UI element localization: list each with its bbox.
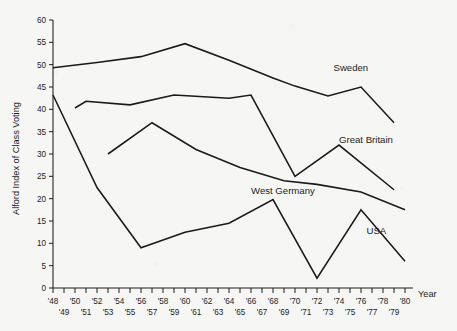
x-tick-label: '58 (158, 297, 169, 306)
y-tick-label: 25 (37, 172, 47, 181)
y-axis: 051015202530354045505560 (37, 16, 53, 293)
x-tick-label: '79 (389, 308, 400, 317)
series-label-sweden: Sweden (334, 62, 369, 73)
x-tick-label: '49 (59, 308, 70, 317)
y-tick-label: 10 (37, 239, 47, 248)
x-tick-label: '76 (356, 297, 367, 306)
x-tick-label: '59 (169, 308, 180, 317)
series-label-west-germany: West Germany (251, 185, 315, 196)
chart-figure: Alford Index of Class Voting Year 051015… (0, 0, 457, 331)
x-tick-label: '53 (103, 308, 114, 317)
x-tick-label: '55 (125, 308, 136, 317)
x-tick-label: '71 (301, 308, 312, 317)
x-tick-label: '66 (246, 297, 257, 306)
x-tick-label: '74 (334, 297, 345, 306)
x-tick-label: '69 (279, 308, 290, 317)
line-chart-plot: Alford Index of Class Voting Year 051015… (0, 0, 457, 331)
x-tick-label: '62 (202, 297, 213, 306)
y-tick-label: 15 (37, 217, 47, 226)
y-tick-label: 45 (37, 83, 47, 92)
y-tick-label: 0 (41, 284, 46, 293)
x-tick-label: '72 (312, 297, 323, 306)
x-tick-label: '67 (257, 308, 268, 317)
x-tick-label: '70 (290, 297, 301, 306)
y-tick-label: 60 (37, 16, 47, 25)
x-tick-label: '78 (378, 297, 389, 306)
x-tick-label: '48 (48, 297, 59, 306)
x-tick-label: '56 (136, 297, 147, 306)
x-tick-label: '61 (191, 308, 202, 317)
series-lines (53, 44, 405, 279)
series-label-usa: USA (367, 225, 387, 236)
x-tick-label: '68 (268, 297, 279, 306)
x-tick-label: '57 (147, 308, 158, 317)
y-tick-label: 35 (37, 128, 47, 137)
x-axis: '48'49'50'51'52'53'54'55'56'57'58'59'60'… (48, 288, 413, 317)
x-tick-label: '50 (70, 297, 81, 306)
series-line-sweden (53, 44, 394, 123)
y-tick-label: 5 (41, 262, 46, 271)
y-tick-label: 30 (37, 150, 47, 159)
x-tick-label: '80 (400, 297, 411, 306)
y-tick-label: 40 (37, 105, 47, 114)
x-tick-label: '51 (81, 308, 92, 317)
series-labels: SwedenGreat BritainWest GermanyUSA (251, 62, 393, 236)
x-tick-label: '52 (92, 297, 103, 306)
x-tick-label: '65 (235, 308, 246, 317)
series-line-usa (53, 95, 405, 278)
x-axis-title: Year (418, 289, 437, 299)
y-tick-label: 20 (37, 195, 47, 204)
x-tick-label: '60 (180, 297, 191, 306)
y-tick-label: 55 (37, 38, 47, 47)
x-tick-label: '54 (114, 297, 125, 306)
x-tick-label: '73 (323, 308, 334, 317)
series-label-great-britain: Great Britain (339, 134, 393, 145)
x-tick-label: '77 (367, 308, 378, 317)
y-axis-title: Alford Index of Class Voting (11, 102, 21, 215)
x-tick-label: '75 (345, 308, 356, 317)
x-tick-label: '64 (224, 297, 235, 306)
y-tick-label: 50 (37, 61, 47, 70)
x-tick-label: '63 (213, 308, 224, 317)
